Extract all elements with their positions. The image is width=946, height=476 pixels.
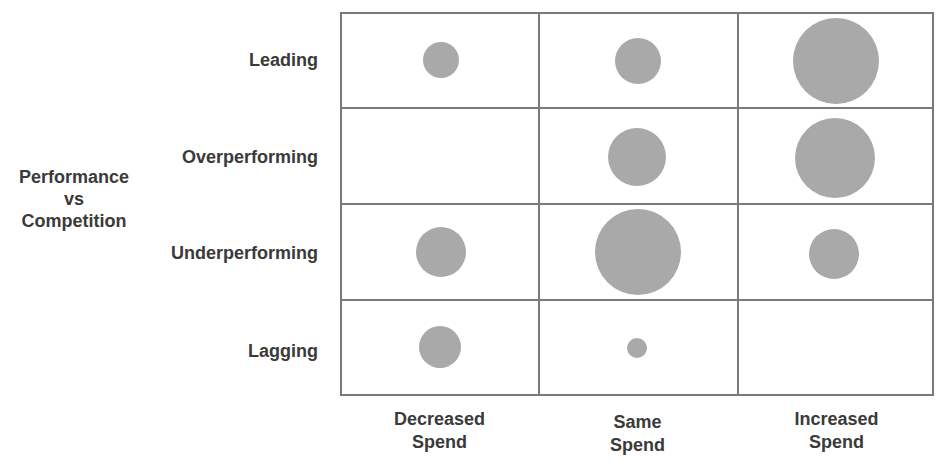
bubble-leading-decreased bbox=[423, 42, 459, 78]
row-label-lagging: Lagging bbox=[248, 340, 318, 362]
bubble-lagging-decreased bbox=[419, 326, 461, 368]
y-axis-title: Performance vs Competition bbox=[6, 166, 142, 232]
y-axis-title-line2: vs bbox=[6, 188, 142, 210]
bubble-overperforming-same bbox=[608, 128, 666, 186]
y-axis-title-line3: Competition bbox=[6, 210, 142, 232]
bubble-underperforming-same bbox=[595, 209, 681, 295]
grid-divider-row2 bbox=[340, 203, 934, 205]
grid-divider-row1 bbox=[340, 107, 934, 109]
grid-divider-row3 bbox=[340, 299, 934, 301]
bubble-lagging-same bbox=[627, 338, 647, 358]
bubble-leading-increased bbox=[793, 18, 879, 104]
column-label-line2: Spend bbox=[737, 431, 936, 454]
y-axis-title-line1: Performance bbox=[6, 166, 142, 188]
column-label-same-spend: Same Spend bbox=[538, 411, 737, 457]
row-label-overperforming: Overperforming bbox=[182, 146, 318, 168]
column-label-decreased-spend: Decreased Spend bbox=[340, 408, 539, 454]
column-label-increased-spend: Increased Spend bbox=[737, 408, 936, 454]
column-label-line2: Spend bbox=[538, 434, 737, 457]
bubble-underperforming-increased bbox=[809, 229, 859, 279]
column-label-line2: Spend bbox=[340, 431, 539, 454]
row-label-leading: Leading bbox=[249, 49, 318, 71]
row-label-underperforming: Underperforming bbox=[171, 242, 318, 264]
bubble-underperforming-decreased bbox=[416, 227, 466, 277]
bubble-leading-same bbox=[615, 38, 661, 84]
bubble-overperforming-increased bbox=[795, 118, 875, 198]
column-label-line1: Same bbox=[538, 411, 737, 434]
column-label-line1: Increased bbox=[737, 408, 936, 431]
column-label-line1: Decreased bbox=[340, 408, 539, 431]
